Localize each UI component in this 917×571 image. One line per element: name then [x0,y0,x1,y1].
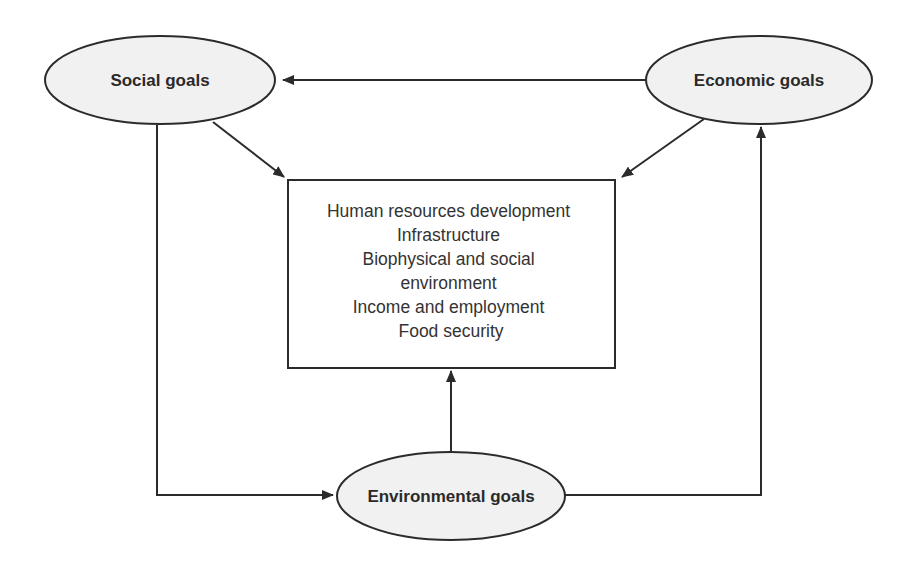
box-line-1: Human resources development [327,201,570,221]
node-economic-goals: Economic goals [646,36,872,124]
box-line-5: Income and employment [353,297,545,317]
box-line-6: Food security [398,321,503,341]
box-line-2: Infrastructure [397,225,500,245]
box-line-3: Biophysical and social [362,249,534,269]
goals-diagram: Human resources development Infrastructu… [0,0,917,571]
economic-goals-label: Economic goals [694,71,824,90]
social-goals-label: Social goals [110,71,209,90]
environmental-goals-label: Environmental goals [367,487,534,506]
node-environmental-goals: Environmental goals [337,452,565,540]
arrow-social-to-box [213,122,284,177]
center-box: Human resources development Infrastructu… [288,180,615,368]
node-social-goals: Social goals [45,36,275,124]
box-line-4: environment [400,273,496,293]
arrow-economic-to-box [622,119,704,177]
